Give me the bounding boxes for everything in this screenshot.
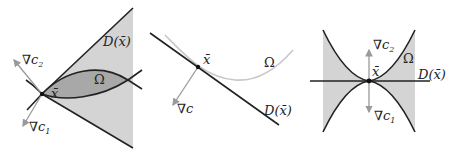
xbar-label: x̄ (51, 86, 59, 101)
omega-label: Ω (94, 72, 105, 87)
cone-label: D(x̄) (102, 34, 131, 49)
grad-c2-label: ∇c2 (373, 37, 394, 54)
panel-2: x̄ Ω ∇c D(x̄) (150, 33, 293, 125)
point-xbar (196, 65, 200, 69)
panel-3: ∇c2 x̄ Ω D(x̄) ∇c1 (310, 30, 446, 132)
cone-label: D(x̄) (417, 67, 446, 82)
omega-label: Ω (264, 55, 275, 70)
grad-c1-label: ∇c1 (374, 108, 395, 125)
panel-1: D(x̄) Ω x̄ ∇c2 ∇c1 (14, 8, 142, 148)
grad-c-label: ∇c (177, 101, 194, 116)
grad-c-arrow (173, 67, 198, 105)
point-xbar (367, 79, 372, 84)
point-xbar (40, 92, 44, 96)
grad-c2-label: ∇c2 (22, 52, 43, 69)
grad-c1-label: ∇c1 (29, 119, 50, 136)
xbar-label: x̄ (203, 52, 211, 67)
tangent-line (150, 33, 279, 125)
omega-label: Ω (403, 51, 414, 66)
xbar-label: x̄ (372, 64, 380, 79)
cone-label: D(x̄) (263, 103, 292, 118)
figure: D(x̄) Ω x̄ ∇c2 ∇c1 x̄ Ω ∇c D(x̄) ∇c2 x̄ … (0, 0, 455, 155)
